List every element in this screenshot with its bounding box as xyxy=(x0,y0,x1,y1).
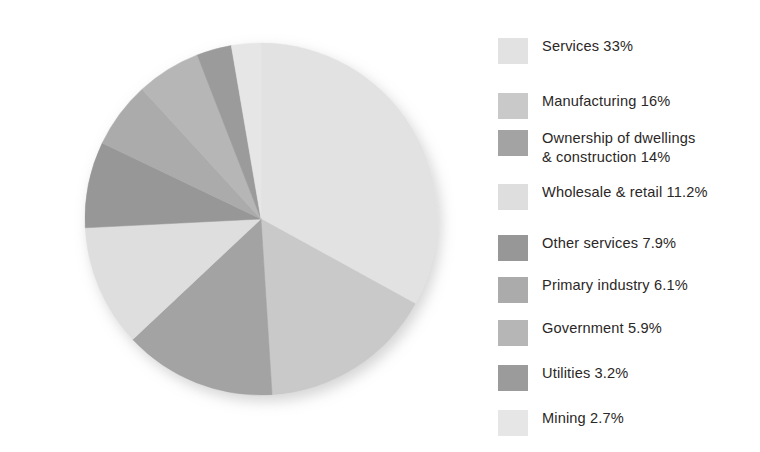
legend-swatch xyxy=(498,365,528,391)
legend-item[interactable]: Ownership of dwellings & construction 14… xyxy=(498,128,756,167)
legend-label: Services 33% xyxy=(542,36,633,56)
chart-legend: Services 33%Manufacturing 16%Ownership o… xyxy=(498,18,756,438)
legend-item[interactable]: Government 5.9% xyxy=(498,318,756,346)
pie-chart-svg xyxy=(0,0,490,452)
legend-swatch xyxy=(498,320,528,346)
legend-label: Mining 2.7% xyxy=(542,408,624,428)
pie-chart-figure: Services 33%Manufacturing 16%Ownership o… xyxy=(0,0,760,452)
legend-swatch xyxy=(498,277,528,303)
legend-label: Manufacturing 16% xyxy=(542,91,670,111)
legend-swatch xyxy=(498,410,528,436)
legend-swatch xyxy=(498,93,528,119)
legend-item[interactable]: Services 33% xyxy=(498,36,756,64)
legend-label: Other services 7.9% xyxy=(542,233,676,253)
legend-item[interactable]: Primary industry 6.1% xyxy=(498,275,756,303)
legend-item[interactable]: Utilities 3.2% xyxy=(498,363,756,391)
legend-swatch xyxy=(498,38,528,64)
legend-item[interactable]: Manufacturing 16% xyxy=(498,91,756,119)
legend-label: Primary industry 6.1% xyxy=(542,275,688,295)
pie-chart-area xyxy=(0,0,490,452)
legend-label: Utilities 3.2% xyxy=(542,363,628,383)
legend-item[interactable]: Mining 2.7% xyxy=(498,408,756,436)
legend-item[interactable]: Other services 7.9% xyxy=(498,233,756,261)
legend-label: Wholesale & retail 11.2% xyxy=(542,182,708,202)
legend-label: Ownership of dwellings & construction 14… xyxy=(542,128,695,167)
legend-item[interactable]: Wholesale & retail 11.2% xyxy=(498,182,756,210)
legend-label: Government 5.9% xyxy=(542,318,662,338)
pie-slice-group xyxy=(85,43,437,395)
legend-swatch xyxy=(498,184,528,210)
legend-swatch xyxy=(498,130,528,156)
legend-swatch xyxy=(498,235,528,261)
